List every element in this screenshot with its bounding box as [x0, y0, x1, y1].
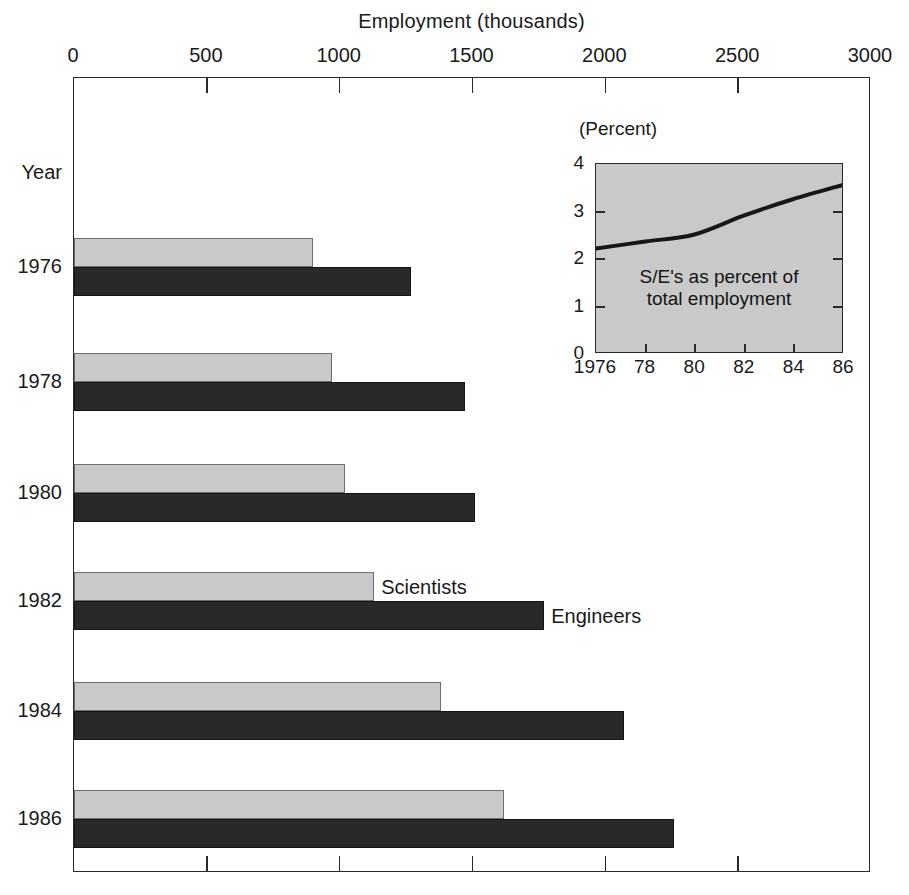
scientists-annotation: Scientists — [381, 575, 467, 598]
inset-y-tick-label-4: 4 — [573, 152, 584, 174]
x-tick-bottom-500 — [206, 856, 208, 871]
inset-x-tick-1984 — [793, 344, 795, 352]
inset-line-chart: (Percent) S/E's as percent of total empl… — [566, 118, 866, 390]
inset-x-tick-label-78: 78 — [634, 356, 655, 378]
x-tick-bottom-1000 — [339, 856, 341, 871]
year-tick-label-1978: 1978 — [18, 370, 63, 393]
bar-scientists-1982 — [74, 572, 374, 601]
y-axis-label-year: Year — [22, 161, 62, 184]
inset-x-tick-label-86: 86 — [832, 356, 853, 378]
x-tick-top-1000 — [339, 78, 341, 93]
x-tick-bottom-2000 — [605, 856, 607, 871]
inset-x-tick-1982 — [744, 344, 746, 352]
inset-y-tick-right-2 — [833, 258, 842, 260]
bar-engineers-1984 — [74, 711, 624, 740]
x-axis-title: Employment (thousands) — [73, 10, 870, 33]
x-tick-bottom-2500 — [737, 856, 739, 871]
x-tick-label-2000: 2000 — [582, 44, 627, 67]
year-tick-label-1984: 1984 — [18, 699, 63, 722]
inset-x-tick-1978 — [645, 344, 647, 352]
y-axis-year-labels: Year197619781980198219841986 — [0, 0, 73, 895]
x-axis-tick-labels: 050010001500200025003000 — [0, 44, 909, 68]
year-tick-label-1980: 1980 — [18, 481, 63, 504]
x-tick-top-1500 — [472, 78, 474, 93]
bar-scientists-1978 — [74, 353, 332, 382]
bar-scientists-1984 — [74, 682, 441, 711]
x-tick-label-1000: 1000 — [316, 44, 361, 67]
year-tick-label-1982: 1982 — [18, 589, 63, 612]
inset-series-path — [596, 185, 842, 248]
inset-y-tick-left-3 — [596, 211, 605, 213]
inset-x-tick-label-84: 84 — [783, 356, 804, 378]
x-tick-label-2500: 2500 — [715, 44, 760, 67]
inset-caption-line1: S/E's as percent of — [595, 266, 843, 288]
bar-scientists-1976 — [74, 238, 313, 267]
x-tick-top-500 — [206, 78, 208, 93]
x-tick-label-1500: 1500 — [449, 44, 494, 67]
inset-y-tick-label-3: 3 — [573, 200, 584, 222]
inset-y-tick-label-2: 2 — [573, 247, 584, 269]
bar-scientists-1986 — [74, 790, 504, 819]
engineers-annotation: Engineers — [551, 604, 641, 627]
year-tick-label-1986: 1986 — [18, 807, 63, 830]
inset-y-tick-label-1: 1 — [573, 295, 584, 317]
inset-x-tick-label-80: 80 — [684, 356, 705, 378]
inset-line-path — [596, 164, 842, 352]
bar-scientists-1980 — [74, 464, 345, 493]
bar-engineers-1976 — [74, 267, 411, 296]
inset-x-tick-label-82: 82 — [733, 356, 754, 378]
x-tick-top-2000 — [605, 78, 607, 93]
x-tick-label-3000: 3000 — [848, 44, 893, 67]
inset-y-tick-left-2 — [596, 258, 605, 260]
inset-caption: S/E's as percent of total employment — [595, 266, 843, 311]
bar-engineers-1986 — [74, 819, 674, 848]
x-tick-top-2500 — [737, 78, 739, 93]
bar-engineers-1978 — [74, 382, 465, 411]
inset-plot-area — [595, 163, 843, 353]
inset-unit-label: (Percent) — [579, 118, 657, 140]
inset-caption-line2: total employment — [595, 288, 843, 310]
inset-x-tick-label-1976: 1976 — [574, 356, 616, 378]
bar-engineers-1982 — [74, 601, 544, 630]
year-tick-label-1976: 1976 — [18, 255, 63, 278]
x-tick-bottom-1500 — [472, 856, 474, 871]
inset-x-tick-1980 — [694, 344, 696, 352]
bar-engineers-1980 — [74, 493, 475, 522]
employment-chart-figure: Employment (thousands) 05001000150020002… — [0, 0, 909, 895]
inset-y-tick-right-3 — [833, 211, 842, 213]
x-tick-label-500: 500 — [189, 44, 222, 67]
